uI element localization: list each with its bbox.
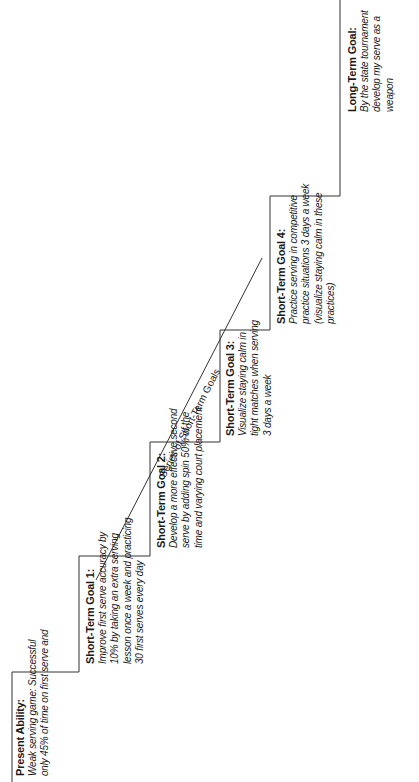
step-title: Long-Term Goal: [346, 10, 359, 112]
step-line: Visualize staying calm in [237, 320, 250, 436]
step-short-term-goal-2: Short-Term Goal 2: Develop a more effect… [155, 407, 205, 548]
step-line: only 45% of time on first serve and [39, 630, 52, 776]
step-title: Short-Term Goal 2: [155, 407, 168, 548]
staircase-path [12, 0, 340, 782]
step-line: Weak serving game: Successful [27, 630, 40, 776]
step-line: Improve first serve accuracy by [97, 518, 110, 664]
step-line: tight matches when serving [249, 320, 262, 436]
step-line: 10% by taking an extra serving [109, 518, 122, 664]
step-title: Short-Term Goal 3: [224, 320, 237, 436]
step-long-term-goal: Long-Term Goal: By the state tournament … [346, 10, 396, 112]
step-title: Short-Term Goal 1: [84, 518, 97, 664]
step-line: practices) [325, 184, 338, 324]
step-present-ability: Present Ability: Weak serving game: Succ… [14, 630, 52, 776]
step-line: lesson once a week and practicing [122, 518, 135, 664]
step-line: weapon [384, 10, 397, 112]
step-line: develop my serve as a [371, 10, 384, 112]
step-line: serve by adding spin 50% of the [180, 407, 193, 548]
step-line: 3 days a week [262, 320, 275, 436]
step-line: Practice serving in competitive [288, 184, 301, 324]
step-short-term-goal-4: Short-Term Goal 4: Practice serving in c… [275, 184, 338, 324]
goal-staircase-diagram: Series of Short-Term Goals Present Abili… [0, 0, 419, 782]
step-short-term-goal-3: Short-Term Goal 3: Visualize staying cal… [224, 320, 274, 436]
step-line: 30 first serves every day [134, 518, 147, 664]
step-short-term-goal-1: Short-Term Goal 1: Improve first serve a… [84, 518, 147, 664]
step-line: Develop a more effective second [168, 407, 181, 548]
step-title: Present Ability: [14, 630, 27, 776]
step-line: practice situations 3 days a week [300, 184, 313, 324]
step-line: time and varying court placement [193, 407, 206, 548]
step-line: (visualize staying calm in these [313, 184, 326, 324]
step-line: By the state tournament [359, 10, 372, 112]
step-title: Short-Term Goal 4: [275, 184, 288, 324]
